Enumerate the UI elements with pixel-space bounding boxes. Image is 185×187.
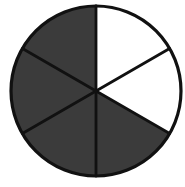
fraction-circle-diagram: 4/6 <box>0 0 185 187</box>
pie-chart-svg <box>0 0 185 187</box>
